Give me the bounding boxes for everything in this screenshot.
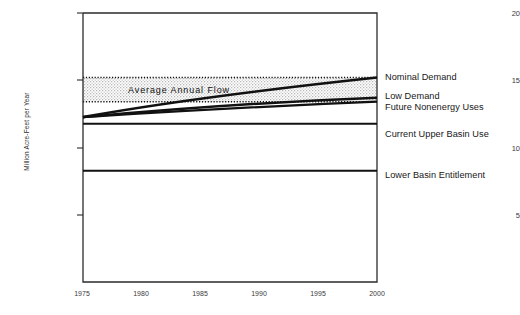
plot-canvas [0, 0, 520, 315]
series-label-lower-basin-entitlement: Lower Basin Entitlement [385, 170, 485, 180]
chart-figure: Million Acre-Feet per Year 20 15 10 5 19… [0, 0, 520, 315]
series-label-future-nonenergy-uses: Future Nonenergy Uses [385, 102, 484, 112]
series-label-current-upper-basin-use: Current Upper Basin Use [385, 129, 489, 139]
axes-frame [83, 13, 377, 282]
series-label-nominal-demand: Nominal Demand [385, 72, 457, 82]
annotation-average-annual-flow: Average Annual Flow [128, 85, 230, 95]
series-label-low-demand: Low Demand [385, 91, 440, 101]
